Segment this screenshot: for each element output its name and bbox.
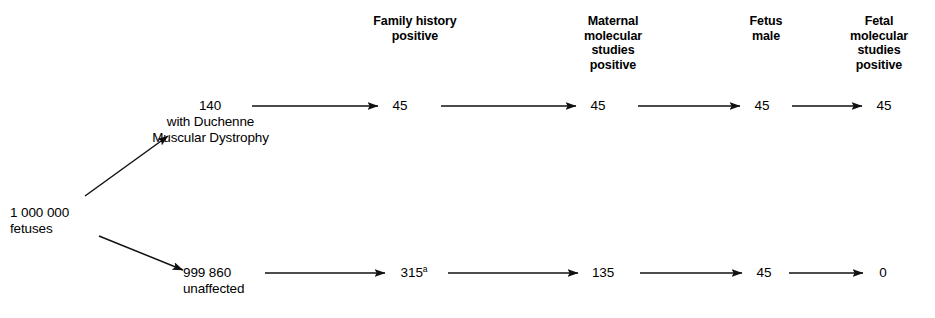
value-unaffected-family-history-superscript: a <box>423 264 428 274</box>
value-unaffected-fetus-male: 45 <box>744 265 784 281</box>
value-unaffected-fetal-molecular: 0 <box>866 265 900 281</box>
duchenne-node-value: 140 <box>176 98 244 114</box>
value-unaffected-maternal-molecular: 135 <box>580 265 626 281</box>
value-affected-family-history: 45 <box>380 98 420 114</box>
column-header-maternal-molecular-studies-positive: Maternal molecular studies positive <box>553 14 673 72</box>
value-affected-fetal-molecular: 45 <box>864 98 904 114</box>
value-unaffected-family-history-number: 315 <box>401 265 423 280</box>
connector-layer <box>0 0 935 318</box>
value-affected-maternal-molecular: 45 <box>578 98 618 114</box>
column-header-family-history-positive: Family history positive <box>345 14 485 43</box>
arrow-root-to-unaffected <box>99 236 183 270</box>
root-node-value: 1 000 000 <box>10 205 130 221</box>
column-header-fetal-molecular-studies-positive: Fetal molecular studies positive <box>824 14 934 72</box>
unaffected-node-value: 999 860 <box>183 265 263 281</box>
root-node-label: fetuses <box>10 221 130 237</box>
value-affected-fetus-male: 45 <box>742 98 782 114</box>
value-unaffected-family-history: 315a <box>386 265 442 281</box>
duchenne-node-label: with Duchenne Muscular Dystrophy <box>128 114 293 146</box>
unaffected-node-label: unaffected <box>183 281 293 297</box>
flow-diagram: Family history positive Maternal molecul… <box>0 0 935 318</box>
column-header-fetus-male: Fetus male <box>716 14 816 43</box>
